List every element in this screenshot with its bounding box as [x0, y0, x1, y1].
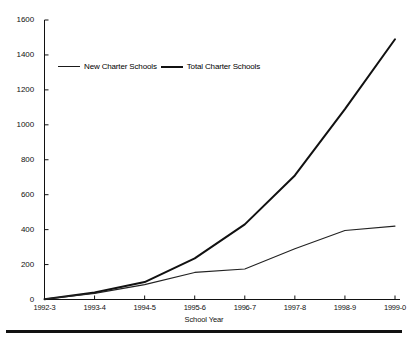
- series-line-new-charter-schools: [45, 226, 396, 299]
- x-axis-tick-label: 1994-5: [122, 303, 168, 312]
- y-axis-tick-label: 200: [8, 260, 34, 269]
- y-axis-tick-label: 1000: [8, 120, 34, 129]
- y-axis-tick-label: 1200: [8, 85, 34, 94]
- chart-plot-area: [0, 0, 408, 341]
- legend-entry-total-charter-schools: Total Charter Schools: [161, 62, 260, 71]
- legend-line-swatch-new-icon: [58, 66, 80, 67]
- chart-legend: New Charter Schools Total Charter School…: [58, 62, 260, 71]
- y-axis-tick-label: 600: [8, 190, 34, 199]
- x-axis-tick-label: 1996-7: [222, 303, 268, 312]
- legend-label-new-charter-schools: New Charter Schools: [84, 62, 157, 71]
- x-axis-tick-label: 1992-3: [22, 303, 68, 312]
- y-axis-tick-label: 400: [8, 225, 34, 234]
- y-axis-tick-label: 800: [8, 155, 34, 164]
- series-line-total-charter-schools: [45, 39, 396, 299]
- x-axis-tick-label: 1995-6: [172, 303, 218, 312]
- legend-label-total-charter-schools: Total Charter Schools: [187, 62, 260, 71]
- x-axis-tick-label: 1999-0: [372, 303, 408, 312]
- x-axis-title: School Year: [0, 315, 408, 324]
- bottom-divider-rule: [6, 330, 402, 333]
- y-axis-tick-label: 1400: [8, 50, 34, 59]
- legend-entry-new-charter-schools: New Charter Schools: [58, 62, 157, 71]
- y-axis-tick-label: 1600: [8, 15, 34, 24]
- legend-line-swatch-total-icon: [161, 66, 183, 68]
- x-axis-tick-label: 1993-4: [72, 303, 118, 312]
- y-axis-ticks: [45, 20, 49, 300]
- x-axis-tick-label: 1997-8: [272, 303, 318, 312]
- x-axis-ticks: [45, 296, 396, 300]
- x-axis-tick-label: 1998-9: [322, 303, 368, 312]
- chart-container: 02004006008001000120014001600 1992-31993…: [0, 0, 408, 341]
